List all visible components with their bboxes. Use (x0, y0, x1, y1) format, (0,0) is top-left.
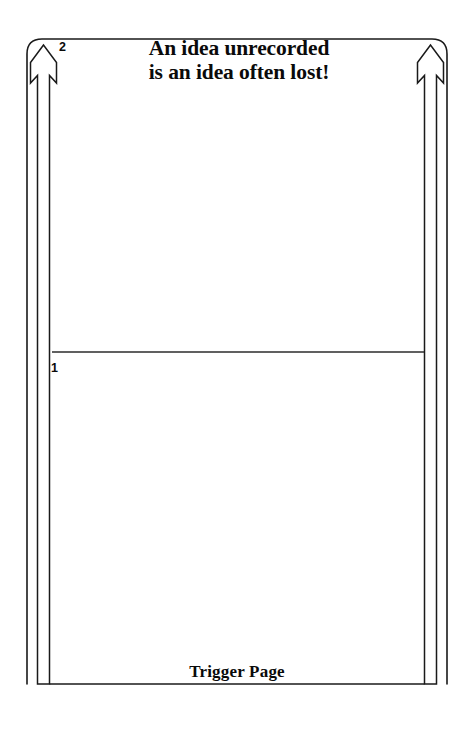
page-heading-line-1: An idea unrecorded (96, 36, 382, 60)
page-heading-line-2: is an idea often lost! (96, 60, 382, 84)
section-number-2: 2 (59, 41, 66, 54)
section-number-1: 1 (51, 362, 58, 375)
arrow-up-outline-icon (418, 45, 444, 684)
page-line-artwork (0, 0, 474, 737)
trigger-page-sheet: An idea unrecorded is an idea often lost… (0, 0, 474, 737)
footer-title: Trigger Page (0, 662, 474, 682)
page-heading: An idea unrecorded is an idea often lost… (96, 36, 382, 84)
outer-page-border (27, 39, 447, 684)
